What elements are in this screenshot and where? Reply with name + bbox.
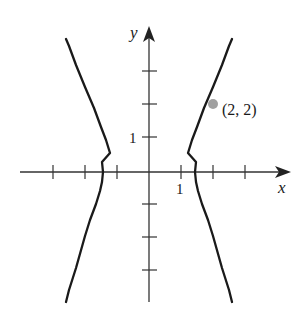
y-axis — [143, 26, 155, 302]
point-marker — [208, 99, 218, 109]
hyperbola-graph: y x 1 1 (2, 2) — [0, 0, 306, 321]
x-tick-label-1: 1 — [176, 181, 184, 197]
x-axis — [20, 166, 291, 178]
y-tick-label-1: 1 — [129, 130, 137, 146]
left-branch-curve — [66, 39, 110, 302]
x-axis-label: x — [277, 178, 286, 197]
y-axis-label: y — [128, 23, 138, 42]
right-branch-curve — [188, 39, 232, 302]
point-label: (2, 2) — [222, 101, 257, 119]
